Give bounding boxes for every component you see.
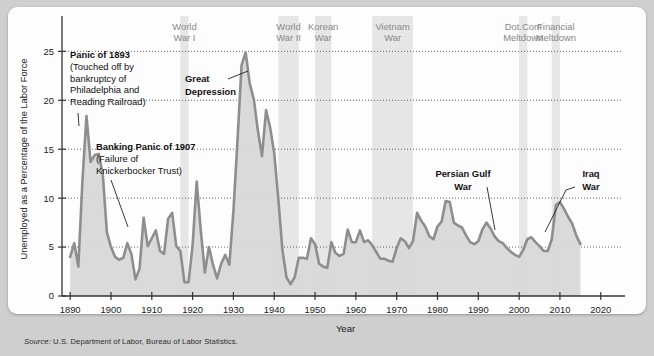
x-tick-label: 1960 xyxy=(345,304,366,315)
annotation-great-depression-line: Depression xyxy=(185,86,236,97)
annotation-iraq-war-line: Iraq xyxy=(582,168,599,179)
event-band-label: War II xyxy=(276,32,301,43)
x-tick-label: 1920 xyxy=(182,304,203,315)
annotation-great-depression-line: Great xyxy=(185,73,210,84)
y-tick-label: 15 xyxy=(44,144,54,155)
y-tick-label: 5 xyxy=(49,241,54,252)
annotation-panic-1907-line: Knickerbocker Trust) xyxy=(96,165,182,176)
unemployment-area-chart: 0510152025189019001910192019301940195019… xyxy=(0,0,654,356)
source-prefix: Source: xyxy=(24,337,51,346)
figure-root: 0510152025189019001910192019301940195019… xyxy=(0,0,654,356)
x-tick-label: 1970 xyxy=(386,304,407,315)
x-tick-label: 2010 xyxy=(550,304,571,315)
y-tick-label: 25 xyxy=(44,46,54,57)
y-axis-title: Unemployed as a Percentage of the Labor … xyxy=(19,58,29,259)
event-band-label: World xyxy=(172,21,196,32)
event-band-label: Korean xyxy=(308,21,338,32)
y-tick-label: 20 xyxy=(44,95,54,106)
annotation-panic-1907-title: Banking Panic of 1907 xyxy=(96,141,196,152)
annotation-panic-1893-line: bankruptcy of xyxy=(70,73,127,84)
annotation-panic-1893-line: Reading Railroad) xyxy=(70,96,146,107)
y-tick-label: 0 xyxy=(49,290,54,301)
x-tick-label: 2000 xyxy=(509,304,530,315)
annotation-panic-1907-line: (Failure of xyxy=(96,153,139,164)
event-band-label: Vietnam xyxy=(375,21,409,32)
event-band-label: Meltdown xyxy=(536,32,576,43)
annotation-panic-1893-title: Panic of 1893 xyxy=(70,49,130,60)
x-tick-label: 1930 xyxy=(223,304,244,315)
source-note: Source: U.S. Department of Labor, Bureau… xyxy=(24,330,624,348)
x-tick-label: 1980 xyxy=(427,304,448,315)
annotation-panic-1893-line: (Touched off by xyxy=(70,61,134,72)
annotation-persian-gulf-line: Persian Gulf xyxy=(435,168,491,179)
x-tick-label: 1950 xyxy=(305,304,326,315)
y-tick-label: 10 xyxy=(44,193,54,204)
x-tick-label: 1940 xyxy=(264,304,285,315)
annotation-leader-line xyxy=(566,187,575,190)
event-band-label: Financial xyxy=(537,21,575,32)
annotation-leader-line xyxy=(78,113,79,126)
chart-plot-area: 0510152025189019001910192019301940195019… xyxy=(0,0,654,356)
x-tick-label: 2020 xyxy=(590,304,611,315)
annotation-panic-1893-line: Philadelphia and xyxy=(70,84,139,95)
event-band-label: War xyxy=(384,32,401,43)
annotation-iraq-war-line: War xyxy=(582,181,600,192)
event-band-label: War I xyxy=(173,32,195,43)
annotation-leader-line xyxy=(111,180,128,227)
annotation-persian-gulf-line: War xyxy=(454,181,472,192)
x-tick-label: 1910 xyxy=(141,304,162,315)
x-tick-label: 1900 xyxy=(101,304,122,315)
event-band-label: World xyxy=(276,21,300,32)
x-tick-label: 1890 xyxy=(60,304,81,315)
x-tick-label: 1990 xyxy=(468,304,489,315)
event-band-label: War xyxy=(315,32,332,43)
source-text: U.S. Department of Labor, Bureau of Labo… xyxy=(53,337,238,346)
